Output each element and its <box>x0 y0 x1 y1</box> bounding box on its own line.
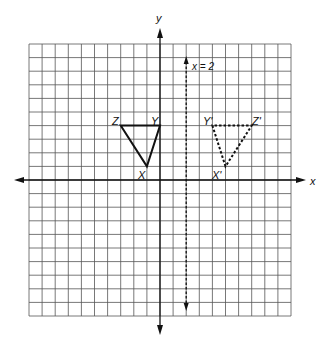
vertex-label-x-prime: X' <box>211 169 222 181</box>
reflection-line-label: x = 2 <box>191 61 214 72</box>
vertex-label-y-prime: Y' <box>203 115 213 127</box>
coordinate-plane: y x x = 2 Z Y X Y' Z' X' <box>0 0 333 347</box>
vertex-label-y: Y <box>151 115 159 127</box>
x-axis-label: x <box>309 175 316 187</box>
vertex-label-z: Z <box>111 115 120 127</box>
preimage-triangle <box>121 126 160 167</box>
y-axis-label: y <box>155 12 163 24</box>
image-triangle <box>212 126 251 167</box>
vertex-label-z-prime: Z' <box>251 115 262 127</box>
vertex-label-x: X <box>137 169 146 181</box>
